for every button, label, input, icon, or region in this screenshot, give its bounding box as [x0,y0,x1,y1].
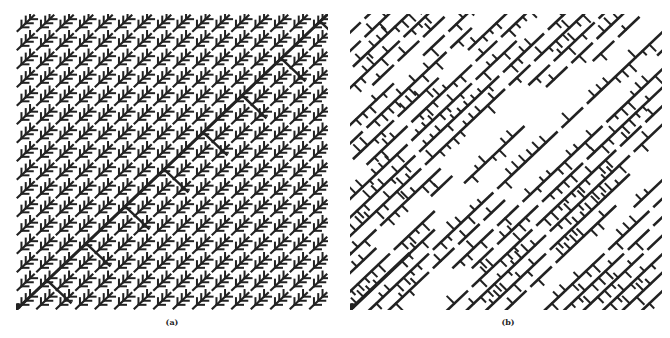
caption-b: (b) [488,317,528,327]
panel-a [16,14,328,310]
tree-pattern-regular [16,14,328,310]
caption-a: (a) [152,317,192,327]
tree-pattern-irregular [350,14,662,310]
panel-b [350,14,662,310]
root-dot [16,303,21,309]
